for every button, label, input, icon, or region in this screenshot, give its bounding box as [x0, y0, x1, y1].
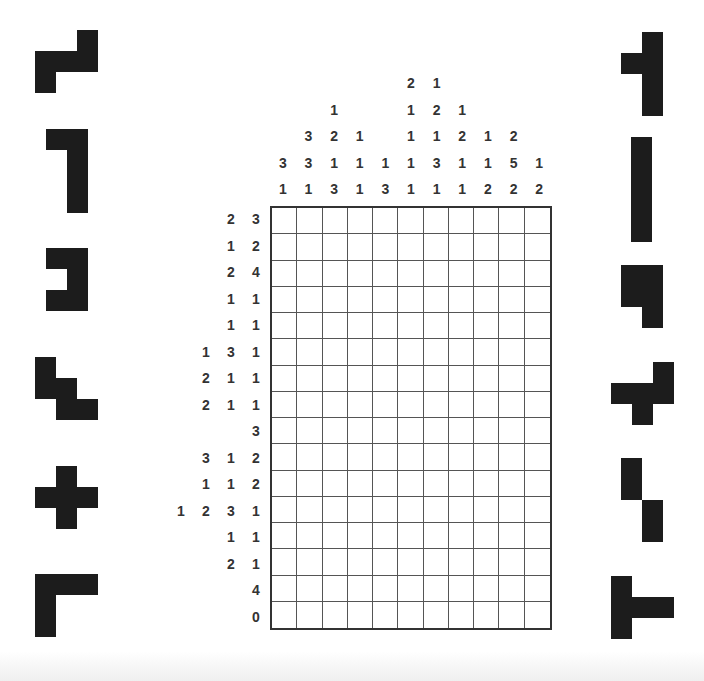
grid-cell-r2-c10[interactable] — [525, 261, 550, 287]
grid-cell-r10-c10[interactable] — [525, 471, 550, 497]
grid-cell-r11-c5[interactable] — [398, 497, 423, 523]
grid-cell-r1-c1[interactable] — [297, 234, 322, 260]
grid-cell-r0-c1[interactable] — [297, 208, 322, 234]
grid-cell-r12-c4[interactable] — [373, 523, 398, 549]
grid-cell-r4-c5[interactable] — [398, 313, 423, 339]
grid-cell-r15-c2[interactable] — [323, 602, 348, 628]
grid-cell-r5-c5[interactable] — [398, 339, 423, 365]
grid-cell-r4-c4[interactable] — [373, 313, 398, 339]
grid-cell-r9-c8[interactable] — [474, 444, 499, 470]
grid-cell-r13-c10[interactable] — [525, 549, 550, 575]
grid-cell-r5-c1[interactable] — [297, 339, 322, 365]
grid-cell-r8-c4[interactable] — [373, 418, 398, 444]
grid-cell-r7-c2[interactable] — [323, 392, 348, 418]
grid-cell-r4-c10[interactable] — [525, 313, 550, 339]
grid-cell-r9-c4[interactable] — [373, 444, 398, 470]
grid-cell-r15-c9[interactable] — [499, 602, 524, 628]
grid-cell-r4-c2[interactable] — [323, 313, 348, 339]
grid-cell-r6-c5[interactable] — [398, 366, 423, 392]
grid-cell-r3-c0[interactable] — [272, 287, 297, 313]
grid-cell-r8-c1[interactable] — [297, 418, 322, 444]
grid-cell-r1-c3[interactable] — [348, 234, 373, 260]
grid-cell-r11-c6[interactable] — [424, 497, 449, 523]
grid-cell-r12-c7[interactable] — [449, 523, 474, 549]
grid-cell-r13-c6[interactable] — [424, 549, 449, 575]
grid-cell-r0-c8[interactable] — [474, 208, 499, 234]
grid-cell-r10-c9[interactable] — [499, 471, 524, 497]
grid-cell-r7-c6[interactable] — [424, 392, 449, 418]
grid-cell-r4-c3[interactable] — [348, 313, 373, 339]
grid-cell-r3-c3[interactable] — [348, 287, 373, 313]
grid-cell-r14-c10[interactable] — [525, 576, 550, 602]
grid-cell-r2-c5[interactable] — [398, 261, 423, 287]
puzzle-grid[interactable] — [270, 206, 552, 630]
grid-cell-r1-c4[interactable] — [373, 234, 398, 260]
grid-cell-r12-c3[interactable] — [348, 523, 373, 549]
grid-cell-r8-c3[interactable] — [348, 418, 373, 444]
grid-cell-r8-c5[interactable] — [398, 418, 423, 444]
grid-cell-r1-c7[interactable] — [449, 234, 474, 260]
grid-cell-r5-c4[interactable] — [373, 339, 398, 365]
grid-cell-r0-c5[interactable] — [398, 208, 423, 234]
grid-cell-r12-c1[interactable] — [297, 523, 322, 549]
grid-cell-r15-c8[interactable] — [474, 602, 499, 628]
grid-cell-r8-c6[interactable] — [424, 418, 449, 444]
grid-cell-r0-c4[interactable] — [373, 208, 398, 234]
grid-cell-r14-c7[interactable] — [449, 576, 474, 602]
grid-cell-r3-c8[interactable] — [474, 287, 499, 313]
grid-cell-r3-c7[interactable] — [449, 287, 474, 313]
grid-cell-r5-c6[interactable] — [424, 339, 449, 365]
grid-cell-r15-c1[interactable] — [297, 602, 322, 628]
grid-cell-r6-c0[interactable] — [272, 366, 297, 392]
grid-cell-r14-c8[interactable] — [474, 576, 499, 602]
grid-cell-r13-c0[interactable] — [272, 549, 297, 575]
grid-cell-r5-c7[interactable] — [449, 339, 474, 365]
grid-cell-r3-c1[interactable] — [297, 287, 322, 313]
grid-cell-r9-c10[interactable] — [525, 444, 550, 470]
grid-cell-r1-c10[interactable] — [525, 234, 550, 260]
grid-cell-r4-c1[interactable] — [297, 313, 322, 339]
grid-cell-r4-c9[interactable] — [499, 313, 524, 339]
grid-cell-r14-c5[interactable] — [398, 576, 423, 602]
grid-cell-r9-c3[interactable] — [348, 444, 373, 470]
grid-cell-r10-c3[interactable] — [348, 471, 373, 497]
grid-cell-r8-c7[interactable] — [449, 418, 474, 444]
grid-cell-r8-c10[interactable] — [525, 418, 550, 444]
grid-cell-r9-c9[interactable] — [499, 444, 524, 470]
grid-cell-r1-c0[interactable] — [272, 234, 297, 260]
grid-cell-r3-c4[interactable] — [373, 287, 398, 313]
grid-cell-r2-c1[interactable] — [297, 261, 322, 287]
grid-cell-r7-c1[interactable] — [297, 392, 322, 418]
grid-cell-r7-c0[interactable] — [272, 392, 297, 418]
grid-cell-r10-c1[interactable] — [297, 471, 322, 497]
grid-cell-r6-c8[interactable] — [474, 366, 499, 392]
grid-cell-r8-c2[interactable] — [323, 418, 348, 444]
grid-cell-r7-c7[interactable] — [449, 392, 474, 418]
grid-cell-r0-c6[interactable] — [424, 208, 449, 234]
grid-cell-r5-c2[interactable] — [323, 339, 348, 365]
grid-cell-r15-c6[interactable] — [424, 602, 449, 628]
grid-cell-r13-c5[interactable] — [398, 549, 423, 575]
grid-cell-r13-c1[interactable] — [297, 549, 322, 575]
grid-cell-r0-c10[interactable] — [525, 208, 550, 234]
grid-cell-r9-c7[interactable] — [449, 444, 474, 470]
grid-cell-r1-c2[interactable] — [323, 234, 348, 260]
grid-cell-r15-c3[interactable] — [348, 602, 373, 628]
grid-cell-r0-c2[interactable] — [323, 208, 348, 234]
grid-cell-r2-c7[interactable] — [449, 261, 474, 287]
grid-cell-r11-c8[interactable] — [474, 497, 499, 523]
grid-cell-r9-c1[interactable] — [297, 444, 322, 470]
grid-cell-r9-c0[interactable] — [272, 444, 297, 470]
grid-cell-r13-c7[interactable] — [449, 549, 474, 575]
grid-cell-r5-c10[interactable] — [525, 339, 550, 365]
grid-cell-r13-c4[interactable] — [373, 549, 398, 575]
grid-cell-r14-c6[interactable] — [424, 576, 449, 602]
grid-cell-r2-c2[interactable] — [323, 261, 348, 287]
grid-cell-r12-c0[interactable] — [272, 523, 297, 549]
grid-cell-r6-c9[interactable] — [499, 366, 524, 392]
grid-cell-r9-c2[interactable] — [323, 444, 348, 470]
grid-cell-r15-c4[interactable] — [373, 602, 398, 628]
grid-cell-r12-c10[interactable] — [525, 523, 550, 549]
grid-cell-r9-c6[interactable] — [424, 444, 449, 470]
grid-cell-r8-c8[interactable] — [474, 418, 499, 444]
